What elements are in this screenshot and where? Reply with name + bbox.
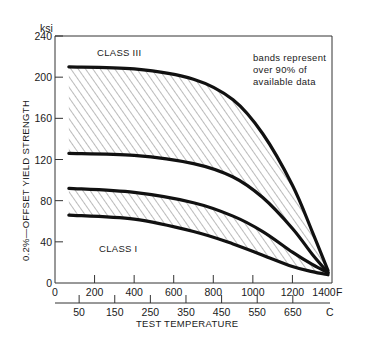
- x-tick-label-c: 350: [177, 306, 195, 318]
- y-ticks: 04080120160200240: [34, 30, 63, 289]
- y-tick-label: 200: [34, 71, 52, 83]
- class-i-label: CLASS I: [99, 243, 138, 254]
- x-tick-label-f: 200: [86, 286, 104, 298]
- note-line-2: over 90% of: [253, 64, 307, 75]
- x-ticks-fahrenheit: 0200400600800100012001400: [52, 275, 336, 298]
- x-tick-label-f: 800: [205, 286, 223, 298]
- yield-strength-chart: 04080120160200240 0200400600800100012001…: [0, 0, 371, 346]
- x-tick-label-f: 600: [165, 286, 183, 298]
- y-tick-label: 120: [34, 154, 52, 166]
- y-axis-title: 0.2%—OFFSET YIELD STRENGTH: [20, 100, 31, 261]
- x-ticks-celsius: 50150250350450550650: [73, 295, 301, 318]
- x-tick-label-f: 0: [52, 286, 58, 298]
- band-class-iii: [69, 67, 328, 273]
- y-tick-label: 40: [40, 236, 52, 248]
- y-tick-label: 80: [40, 195, 52, 207]
- x-tick-label-c: 50: [73, 306, 85, 318]
- x-unit-c-label: C: [326, 306, 334, 318]
- x-tick-label-c: 250: [142, 306, 160, 318]
- y-unit-label: ksi: [40, 22, 53, 34]
- x-tick-label-f: 1000: [241, 286, 265, 298]
- x-tick-label-c: 650: [284, 306, 302, 318]
- note-line-3: available data: [253, 76, 316, 87]
- note-line-1: bands represent: [253, 52, 326, 63]
- x-tick-label-c: 550: [248, 306, 266, 318]
- x-axis-title: TEST TEMPERATURE: [136, 318, 238, 329]
- x-tick-label-c: 150: [106, 306, 124, 318]
- y-tick-label: 160: [34, 112, 52, 124]
- x-tick-label-f: 400: [125, 286, 143, 298]
- x-unit-f-label: F: [336, 286, 342, 298]
- x-tick-label-c: 450: [213, 306, 231, 318]
- x-tick-label-f: 1400: [312, 286, 336, 298]
- class-iii-label: CLASS III: [97, 47, 141, 58]
